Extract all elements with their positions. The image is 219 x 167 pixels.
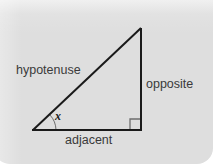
label-angle-x: x: [55, 110, 61, 122]
label-hypotenuse: hypotenuse: [16, 64, 81, 77]
diagram-canvas: hypotenuse opposite adjacent x: [0, 0, 219, 167]
side-hypotenuse-line: [33, 28, 141, 130]
label-opposite: opposite: [146, 78, 193, 91]
right-angle-icon: [130, 119, 141, 130]
label-adjacent: adjacent: [65, 134, 112, 147]
